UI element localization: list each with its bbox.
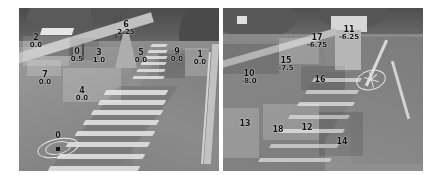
annotation-id: 0 xyxy=(55,132,61,140)
annotation-label: 2 0.0 xyxy=(30,34,42,50)
annotation-value: 2.25 xyxy=(117,29,134,36)
left-scene: 2 0.0 0 0.5 6 2.25 3 1.0 5 0.0 9 0.0 xyxy=(19,8,219,171)
annotation-value: -6.75 xyxy=(307,42,327,49)
annotation-value: 0.0 xyxy=(171,56,183,63)
annotation-value: 0.0 xyxy=(135,57,147,64)
stair-step xyxy=(48,166,141,171)
annotation-value: 0.0 xyxy=(76,95,88,102)
stair-step xyxy=(258,158,332,162)
annotation-label: 10 -8.0 xyxy=(241,70,256,86)
annotation-value: -7.5 xyxy=(278,65,293,72)
annotation-label: 7 0.0 xyxy=(39,71,51,87)
stair-step xyxy=(91,110,164,115)
stair-step xyxy=(75,131,156,136)
annotation-label: 0 0.5 xyxy=(71,48,83,64)
annotation-label: 13 xyxy=(239,120,250,128)
annotation-id: 14 xyxy=(336,138,347,146)
annotation-label: 12 xyxy=(301,124,312,132)
annotation-label: 16 xyxy=(314,76,325,84)
annotation-label: 14 xyxy=(336,138,347,146)
annotation-label: 15 -7.5 xyxy=(278,57,293,73)
left-panel-image: 2 0.0 0 0.5 6 2.25 3 1.0 5 0.0 9 0.0 xyxy=(19,8,219,171)
annotation-value: 0.5 xyxy=(71,56,83,63)
annotation-label: 18 xyxy=(272,126,283,134)
annotation-label: 4 0.0 xyxy=(76,87,88,103)
stair-step xyxy=(57,154,146,159)
segment-patch xyxy=(63,68,121,102)
annotation-label: 17 -6.75 xyxy=(307,34,327,50)
right-scene: 17 -6.75 11 -6.25 15 -7.5 10 -8.0 16 13 xyxy=(223,8,423,171)
annotation-label: 11 -6.25 xyxy=(339,26,359,42)
stair-step xyxy=(150,44,168,47)
signage-shape xyxy=(237,16,247,24)
annotation-label: 0 xyxy=(55,132,61,140)
annotation-value: -8.0 xyxy=(241,78,256,85)
annotation-value: 0.0 xyxy=(39,79,51,86)
annotation-id: 13 xyxy=(239,120,250,128)
figure-container: 2 0.0 0 0.5 6 2.25 3 1.0 5 0.0 9 0.0 xyxy=(0,0,443,175)
annotation-id: 16 xyxy=(314,76,325,84)
stair-step xyxy=(83,120,160,125)
segment-patch xyxy=(223,108,259,158)
annotation-label: 9 0.0 xyxy=(171,48,183,64)
stair-step xyxy=(147,50,168,53)
annotation-label: 5 0.0 xyxy=(135,49,147,65)
marker-center-dot xyxy=(56,147,60,151)
stair-step xyxy=(305,90,359,94)
annotation-label: 1 0.0 xyxy=(194,51,206,67)
annotation-value: -6.25 xyxy=(339,34,359,41)
building-roof xyxy=(40,28,74,35)
annotation-value: 0.0 xyxy=(194,59,206,66)
segment-patch xyxy=(319,112,363,156)
annotation-value: 1.0 xyxy=(93,57,105,64)
annotation-label: 3 1.0 xyxy=(93,49,105,65)
annotation-id: 12 xyxy=(301,124,312,132)
annotation-value: 0.0 xyxy=(30,42,42,49)
right-panel-image: 17 -6.75 11 -6.25 15 -7.5 10 -8.0 16 13 xyxy=(223,8,423,171)
annotation-id: 18 xyxy=(272,126,283,134)
segment-patch xyxy=(263,104,319,140)
annotation-label: 6 2.25 xyxy=(117,21,134,37)
